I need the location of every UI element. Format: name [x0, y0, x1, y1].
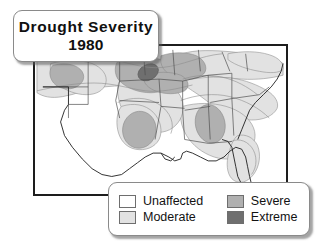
legend-swatch-severe [227, 195, 244, 208]
legend-item-unaffected[interactable]: Unaffected [119, 195, 207, 208]
drought-severity-map [35, 46, 286, 194]
map-title-line-2: 1980 [68, 36, 103, 54]
legend-item-extreme[interactable]: Extreme [227, 211, 301, 224]
legend-swatch-extreme [227, 211, 244, 224]
legend-swatch-moderate [119, 211, 136, 224]
map-frame [33, 44, 288, 196]
legend-label-moderate: Moderate [143, 211, 196, 224]
legend-label-unaffected: Unaffected [143, 195, 203, 208]
legend-label-extreme: Extreme [251, 211, 298, 224]
legend-item-moderate[interactable]: Moderate [119, 211, 207, 224]
legend-swatch-unaffected [119, 195, 136, 208]
map-title-callout: Drought Severity 1980 [13, 10, 159, 62]
map-title-line-1: Drought Severity [19, 18, 154, 36]
map-legend: Unaffected Severe Moderate Extreme [108, 182, 310, 236]
legend-item-severe[interactable]: Severe [227, 195, 301, 208]
legend-grid: Unaffected Severe Moderate Extreme [119, 195, 301, 224]
legend-label-severe: Severe [251, 195, 291, 208]
drought-map-figure: Drought Severity 1980 Unaffected Severe … [0, 0, 322, 246]
